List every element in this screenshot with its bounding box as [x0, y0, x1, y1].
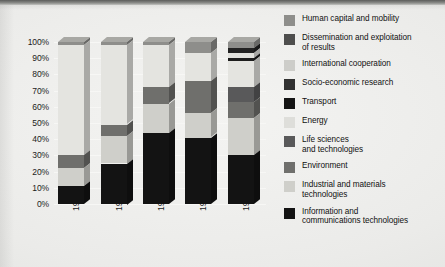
bar-segment[interactable]: [143, 45, 169, 87]
bar-segment[interactable]: [101, 136, 127, 164]
bar-segment[interactable]: [101, 45, 127, 124]
y-axis-tick-label: 0%: [37, 199, 49, 209]
legend-swatch-icon: [284, 15, 295, 26]
legend-item[interactable]: Information and communications technolog…: [284, 207, 440, 226]
y-axis-tick-label: 50%: [32, 118, 49, 128]
bar[interactable]: 1984-1987: [101, 42, 127, 204]
legend-item[interactable]: Human capital and mobility: [284, 14, 440, 26]
bar-segment[interactable]: [228, 87, 254, 102]
bar-segment[interactable]: [58, 155, 84, 168]
legend-swatch-icon: [284, 162, 295, 173]
y-axis-tick-label: 90%: [32, 53, 49, 63]
legend-item-label: Transport: [302, 97, 336, 107]
bar-segment[interactable]: [185, 53, 211, 81]
bar-segment[interactable]: [143, 133, 169, 204]
bar-segment[interactable]: [58, 45, 84, 155]
bar-segment[interactable]: [228, 102, 254, 118]
legend-item-label: Dissemination and exploitation of result…: [302, 33, 412, 52]
bar[interactable]: 1990-1994: [185, 42, 211, 204]
y-axis-tick-label: 60%: [32, 102, 49, 112]
chart-screenshot: 100%90%80%70%60%50%40%30%20%10%0% 198219…: [0, 0, 445, 267]
legend-item[interactable]: Life sciences and technologies: [284, 135, 440, 154]
bar-segment[interactable]: [228, 155, 254, 204]
legend-swatch-icon: [284, 79, 295, 90]
legend-item-label: Socio-economic research: [302, 78, 393, 88]
bar-segment[interactable]: [143, 87, 169, 103]
legend-swatch-icon: [284, 117, 295, 128]
legend-item[interactable]: Energy: [284, 116, 440, 128]
legend-item[interactable]: Socio-economic research: [284, 78, 440, 90]
legend-swatch-icon: [284, 136, 295, 147]
chart-legend: Human capital and mobilityDissemination …: [284, 14, 440, 233]
y-axis-tick-label: 30%: [32, 150, 49, 160]
legend-item-label: Human capital and mobility: [302, 14, 399, 24]
y-axis-tick-label: 70%: [32, 86, 49, 96]
y-axis-tick-label: 20%: [32, 167, 49, 177]
bar-segment[interactable]: [58, 168, 84, 186]
y-axis-tick-label: 40%: [32, 134, 49, 144]
legend-item-label: Energy: [302, 116, 328, 126]
bar-segment[interactable]: [228, 118, 254, 155]
legend-item[interactable]: Transport: [284, 97, 440, 109]
legend-swatch-icon: [284, 98, 295, 109]
legend-swatch-icon: [284, 181, 295, 192]
legend-item[interactable]: Industrial and materials technologies: [284, 180, 440, 199]
y-axis-tick-label: 80%: [32, 69, 49, 79]
legend-item[interactable]: International cooperation: [284, 59, 440, 71]
legend-item-label: Information and communications technolog…: [302, 207, 408, 226]
bar-segment[interactable]: [58, 186, 84, 204]
legend-swatch-icon: [284, 208, 295, 219]
legend-item[interactable]: Environment: [284, 161, 440, 173]
bar-segment[interactable]: [185, 42, 211, 53]
bar-segment[interactable]: [185, 138, 211, 204]
bar-segment[interactable]: [101, 164, 127, 205]
legend-item[interactable]: Dissemination and exploitation of result…: [284, 33, 440, 52]
bar-segment[interactable]: [185, 81, 211, 113]
bar-segment[interactable]: [101, 125, 127, 136]
bar[interactable]: 1982: [58, 42, 84, 204]
bar[interactable]: 1994-1998: [228, 42, 254, 204]
y-axis-tick-label: 100%: [28, 37, 49, 47]
legend-item-label: Industrial and materials technologies: [302, 180, 385, 199]
bar-segment[interactable]: [143, 104, 169, 133]
bar-segment[interactable]: [185, 113, 211, 137]
plot-area: 100%90%80%70%60%50%40%30%20%10%0% 198219…: [54, 42, 266, 204]
legend-swatch-icon: [284, 34, 295, 45]
y-axis-tick-label: 10%: [32, 183, 49, 193]
scan-top-edge: [0, 0, 445, 5]
legend-item-label: Life sciences and technologies: [302, 135, 363, 154]
bar[interactable]: 1987-1991: [143, 42, 169, 204]
legend-item-label: Environment: [302, 161, 347, 171]
legend-swatch-icon: [284, 60, 295, 71]
bar-segment[interactable]: [228, 61, 254, 87]
legend-item-label: International cooperation: [302, 59, 391, 69]
